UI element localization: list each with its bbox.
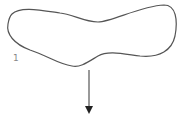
diagram-canvas: 1 (0, 0, 182, 136)
blob-outline (8, 5, 177, 66)
shape-number-label: 1 (13, 53, 19, 63)
down-arrow-head-icon (85, 106, 93, 114)
